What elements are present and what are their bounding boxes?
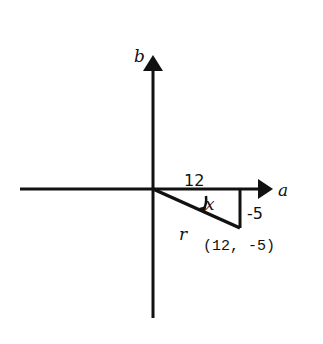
complex-plane-diagram: b a 12 x -5 r (12, -5): [0, 0, 323, 344]
vertical-axis-label: b: [134, 46, 145, 66]
angle-label: x: [205, 194, 215, 214]
horizontal-axis-label: a: [278, 180, 288, 200]
opposite-side-label: -5: [247, 204, 263, 223]
hypotenuse-label: r: [179, 224, 188, 244]
hypotenuse: [153, 189, 240, 228]
adjacent-side-label: 12: [184, 171, 204, 190]
point-label: (12, -5): [203, 238, 275, 255]
horizontal-axis-arrow-icon: [258, 179, 273, 199]
vertical-axis-arrow-icon: [143, 55, 163, 71]
